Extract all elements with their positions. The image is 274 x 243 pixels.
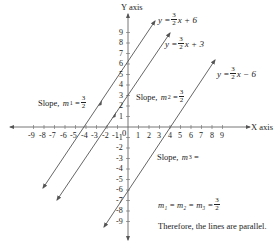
equation-line-1: y = 32 x + 6	[158, 12, 197, 27]
equation-line-3: y = 32 x − 6	[217, 66, 256, 81]
fraction: 32	[179, 89, 185, 104]
y-tick-label: -2	[116, 144, 123, 152]
x-tick-label: 9	[220, 132, 224, 140]
coordinate-plane	[0, 0, 274, 243]
slope-label-1: Slope, m1 = 32	[38, 95, 87, 110]
y-tick-label: -1	[116, 134, 123, 142]
equation-prefix: y =	[165, 39, 177, 49]
fraction: 32	[171, 12, 177, 27]
fraction: 32	[214, 197, 220, 212]
y-tick-label: -7	[116, 197, 123, 205]
y-tick-label: 6	[119, 60, 123, 68]
equation-prefix: y =	[158, 15, 170, 25]
fraction: 32	[178, 36, 184, 51]
x-tick-label: 8	[210, 132, 214, 140]
slope-label-3: Slope, m3 =	[157, 152, 199, 162]
equation-prefix: y =	[217, 69, 229, 79]
equation-suffix: x + 6	[178, 15, 197, 25]
conclusion-text: Therefore, the lines are parallel.	[158, 221, 267, 231]
x-tick-label: 5	[178, 132, 182, 140]
x-tick-label: -3	[91, 132, 98, 140]
y-tick-label: -5	[116, 176, 123, 184]
y-tick-label: -9	[116, 218, 123, 226]
slope-label-2: Slope, m2 = 32	[136, 89, 185, 104]
x-tick-label: -6	[60, 132, 67, 140]
x-axis-label: X axis	[251, 123, 273, 132]
equation-suffix: x − 6	[237, 69, 256, 79]
fraction: 32	[81, 95, 87, 110]
y-tick-label: 1	[119, 113, 123, 121]
x-tick-label: -2	[102, 132, 109, 140]
x-tick-label: 7	[199, 132, 203, 140]
x-tick-label: 3	[157, 132, 161, 140]
x-tick-label: 2	[147, 132, 151, 140]
equation-suffix: x + 3	[185, 39, 204, 49]
x-tick-label: 6	[189, 132, 193, 140]
x-tick-label: -9	[28, 132, 35, 140]
y-tick-label: 5	[119, 71, 123, 79]
y-tick-label: 2	[119, 102, 123, 110]
fraction: 32	[230, 66, 236, 81]
y-tick-label: -8	[116, 207, 123, 215]
x-tick-label: -5	[70, 132, 77, 140]
x-tick-label: 4	[168, 132, 172, 140]
x-tick-label: -8	[39, 132, 46, 140]
y-tick-label: 9	[119, 29, 123, 37]
x-tick-label: 1	[136, 132, 140, 140]
x-tick-label: -4	[81, 132, 88, 140]
y-tick-label: 7	[119, 50, 123, 58]
y-tick-label: 8	[119, 39, 123, 47]
y-tick-label: 4	[119, 81, 123, 89]
y-tick-label: 3	[119, 92, 123, 100]
y-axis-label: Y axis	[121, 3, 143, 12]
y-tick-label: -3	[116, 155, 123, 163]
x-tick-label: -7	[49, 132, 56, 140]
y-tick-label: -4	[116, 165, 123, 173]
slope-equality: m₁ = m₂ = m₃ = 32	[158, 197, 221, 212]
y-tick-label: -6	[116, 186, 123, 194]
equation-line-2: y = 32 x + 3	[165, 36, 204, 51]
